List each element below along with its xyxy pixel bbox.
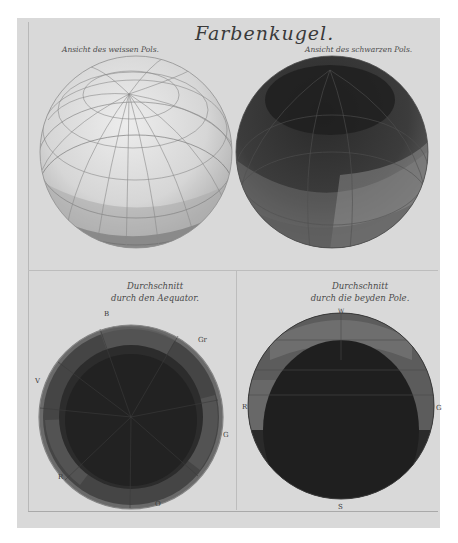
label-o: O (155, 500, 161, 508)
caption-equator-line1: Durchschnitt (95, 280, 215, 292)
label-s: S (338, 503, 343, 511)
poles-section-disc (248, 313, 434, 520)
label-r-poles: R (242, 403, 247, 411)
black-pole-sphere (236, 56, 430, 260)
label-g: G (223, 431, 229, 439)
caption-black-pole: Ansicht des schwarzen Pols. (305, 45, 412, 54)
label-g-poles: G (436, 404, 442, 412)
caption-poles-line1: Durchschnitt (300, 280, 420, 292)
label-r: R (58, 473, 63, 481)
caption-poles-line2: durch die beyden Pole. (300, 292, 420, 304)
equator-section-disc (39, 325, 223, 509)
label-v: V (35, 377, 40, 385)
white-pole-sphere (30, 56, 245, 260)
label-gr: Gr (198, 336, 207, 344)
plate-title: Farbenkugel. (195, 22, 334, 44)
label-w: W (338, 307, 344, 314)
caption-poles-section: Durchschnitt durch die beyden Pole. (300, 280, 420, 304)
plate-illustrations (0, 0, 458, 543)
label-b: B (104, 310, 109, 318)
caption-equator-line2: durch den Aequator. (95, 292, 215, 304)
caption-equator-section: Durchschnitt durch den Aequator. (95, 280, 215, 304)
caption-white-pole: Ansicht des weissen Pols. (62, 45, 159, 54)
